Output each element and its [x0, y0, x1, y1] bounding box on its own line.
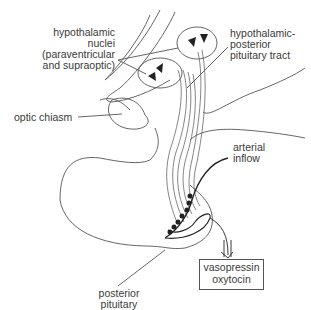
hypothalamic-nuclei-label: hypothalamic nuclei (paraventricular and…	[38, 27, 115, 71]
arterial-inflow-label: arterial inflow	[233, 142, 265, 164]
hormones-box: vasopressin oxytocin	[199, 259, 264, 290]
tract-fibers	[167, 50, 205, 225]
hormone-vasopressin: vasopressin	[200, 261, 263, 273]
optic-chiasm-label: optic chiasm	[14, 112, 72, 123]
upper-contour	[100, 99, 130, 110]
tract-label: hypothalamic- posterior pituitary tract	[230, 28, 295, 61]
venous-outflow	[210, 218, 228, 255]
label-line: and supraoptic)	[38, 60, 115, 71]
label-line: inflow	[233, 153, 265, 164]
nuclei-pointer	[118, 48, 178, 74]
hormone-oxytocin: oxytocin	[200, 273, 263, 285]
posterior-pituitary-pointer	[118, 250, 165, 286]
pituitary-stalk-left	[60, 128, 185, 249]
chiasm-pointer	[78, 114, 122, 117]
tract-pointer	[187, 47, 228, 88]
hypothalamus-outline	[107, 12, 175, 102]
optic-chiasm-shape	[108, 98, 148, 129]
upper-right-contour	[203, 68, 305, 113]
middle-right-contour	[190, 129, 305, 140]
label-line: pituitary tract	[230, 50, 295, 61]
paraventricular-nucleus	[177, 27, 217, 59]
label-line: pituitary	[94, 299, 144, 310]
posterior-pituitary-label: posterior pituitary	[94, 288, 144, 310]
